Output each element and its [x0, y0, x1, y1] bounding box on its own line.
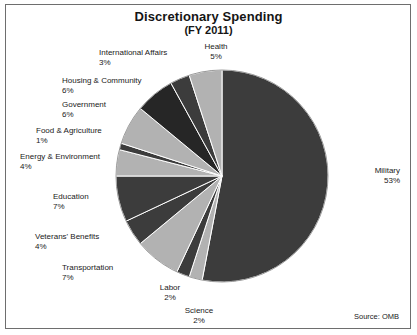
pie-label-veterans-benefits-value: 4%: [35, 242, 148, 252]
pie-label-health-name: Health: [188, 42, 244, 52]
pie-label-government: Government 6%: [62, 100, 167, 120]
pie-label-food-agriculture-name: Food & Agriculture: [36, 126, 146, 136]
pie-label-food-agriculture-value: 1%: [36, 136, 146, 146]
pie-label-science: Science 2%: [172, 306, 226, 326]
pie-label-housing-community-name: Housing & Community: [62, 76, 167, 86]
pie-label-veterans-benefits-name: Veterans' Benefits: [35, 232, 148, 242]
pie-label-education-name: Education: [53, 192, 143, 202]
pie-label-health-value: 5%: [188, 52, 244, 62]
pie-label-transportation: Transportation 7%: [62, 263, 157, 283]
pie-label-housing-community: Housing & Community 6%: [62, 76, 167, 96]
pie-label-military-value: 53%: [340, 176, 400, 186]
pie-label-military-name: Military: [340, 166, 400, 176]
pie-label-energy-environment-name: Energy & Environment: [20, 152, 143, 162]
source-note: Source: OMB: [354, 312, 399, 321]
pie-label-transportation-name: Transportation: [62, 263, 157, 273]
pie-label-labor-name: Labor: [145, 283, 195, 293]
pie-label-government-value: 6%: [62, 110, 167, 120]
pie-label-international-affairs: International Affairs 3%: [99, 48, 189, 68]
chart-page: Discretionary Spending (FY 2011) Health …: [0, 0, 417, 335]
pie-label-labor-value: 2%: [145, 293, 195, 303]
pie-label-transportation-value: 7%: [62, 273, 157, 283]
pie-label-education-value: 7%: [53, 202, 143, 212]
pie-label-food-agriculture: Food & Agriculture 1%: [36, 126, 146, 146]
pie-label-labor: Labor 2%: [145, 283, 195, 303]
pie-label-energy-environment-value: 4%: [20, 162, 143, 172]
pie-label-international-affairs-value: 3%: [99, 58, 189, 68]
pie-label-housing-community-value: 6%: [62, 86, 167, 96]
pie-label-education: Education 7%: [53, 192, 143, 212]
pie-label-military: Military 53%: [340, 166, 400, 186]
pie-label-international-affairs-name: International Affairs: [99, 48, 189, 58]
pie-label-health: Health 5%: [188, 42, 244, 62]
pie-label-energy-environment: Energy & Environment 4%: [20, 152, 143, 172]
pie-label-government-name: Government: [62, 100, 167, 110]
pie-label-science-value: 2%: [172, 316, 226, 326]
pie-label-science-name: Science: [172, 306, 226, 316]
pie-label-veterans-benefits: Veterans' Benefits 4%: [35, 232, 148, 252]
